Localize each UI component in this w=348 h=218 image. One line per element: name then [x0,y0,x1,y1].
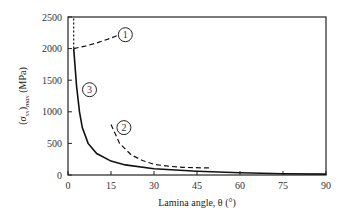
annotation-label-3: 3 [87,84,92,95]
x-tick-label: 30 [149,180,159,191]
x-tick-label: 45 [192,180,202,191]
x-axis-label: Lamina angle, θ (°) [158,197,236,209]
y-tick-label: 1000 [42,106,62,117]
x-tick-label: 90 [321,180,331,191]
y-tick-label: 2500 [42,12,62,23]
y-tick-label: 2000 [42,43,62,54]
x-tick-label: 0 [66,180,71,191]
chart: 015304560759005001000150020002500Lamina … [0,0,348,218]
y-tick-label: 0 [57,170,62,181]
annotation-label-1: 1 [123,29,128,40]
annotation-label-2: 2 [121,122,126,133]
y-axis-label: (σxx)max (MPa) [17,67,31,125]
series-3 [74,49,326,175]
y-tick-label: 500 [47,138,62,149]
x-tick-label: 15 [106,180,116,191]
y-tick-label: 1500 [42,75,62,86]
series-1 [74,35,120,49]
plot-frame [68,17,326,175]
x-tick-label: 60 [235,180,245,191]
x-tick-label: 75 [278,180,288,191]
